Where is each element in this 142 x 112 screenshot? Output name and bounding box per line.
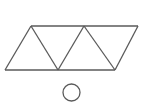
geometric-figure-canvas <box>0 0 142 112</box>
figure-background <box>0 0 142 112</box>
